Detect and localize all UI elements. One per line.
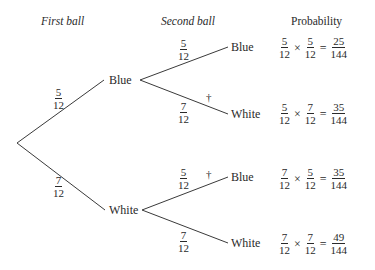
dagger-blue-white: † [206, 91, 212, 103]
header-second-ball: Second ball [161, 15, 215, 27]
node-first-white: White [109, 204, 138, 216]
prob-white-blue: 512 [178, 167, 189, 191]
node-blue-blue: Blue [231, 41, 254, 53]
outcome-white-white: 712 × 712 = 49144 [279, 232, 347, 256]
prob-blue-blue: 512 [178, 38, 189, 62]
prob-first-blue: 512 [53, 87, 64, 111]
prob-blue-white: 712 [178, 101, 189, 125]
outcome-white-blue: 712 × 512 = 35144 [279, 167, 347, 191]
dagger-white-blue: † [206, 168, 212, 180]
header-probability: Probability [291, 15, 342, 27]
prob-first-white: 712 [53, 175, 64, 199]
outcome-blue-blue: 512 × 512 = 25144 [279, 36, 347, 60]
node-first-blue: Blue [109, 74, 132, 86]
node-blue-white: White [231, 108, 260, 120]
prob-white-white: 712 [178, 230, 189, 254]
node-white-blue: Blue [231, 171, 254, 183]
header-first-ball: First ball [41, 15, 84, 27]
node-white-white: White [231, 237, 260, 249]
outcome-blue-white: 512 × 712 = 35144 [279, 102, 347, 126]
